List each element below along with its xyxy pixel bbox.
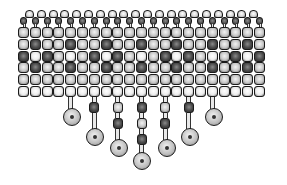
grid-bead <box>171 74 182 85</box>
grid-bead <box>42 39 53 50</box>
bead-pattern-figure <box>0 0 287 185</box>
pendant-bead <box>137 102 147 113</box>
grid-bead <box>171 27 182 38</box>
grid-bead <box>42 86 53 97</box>
grid-bead <box>112 39 123 50</box>
grid-bead <box>124 51 135 62</box>
grid-bead <box>183 51 194 62</box>
grid-bead <box>230 27 241 38</box>
grid-bead <box>77 86 88 97</box>
grid-bead <box>171 86 182 97</box>
grid-bead <box>219 51 230 62</box>
grid-bead <box>148 62 159 73</box>
grid-bead <box>101 27 112 38</box>
grid-bead <box>160 39 171 50</box>
grid-bead <box>254 27 265 38</box>
grid-bead <box>254 51 265 62</box>
grid-bead <box>65 27 76 38</box>
grid-bead <box>148 86 159 97</box>
grid-bead <box>195 27 206 38</box>
grid-bead <box>30 74 41 85</box>
grid-bead <box>18 39 29 50</box>
grid-bead <box>124 27 135 38</box>
grid-bead <box>136 86 147 97</box>
grid-bead <box>89 74 100 85</box>
grid-bead <box>77 39 88 50</box>
grid-bead <box>219 27 230 38</box>
grid-bead <box>160 74 171 85</box>
pendant-disc-hole <box>140 159 144 163</box>
grid-bead <box>148 74 159 85</box>
grid-bead <box>30 27 41 38</box>
pendant-disc-hole <box>93 135 97 139</box>
grid-bead <box>183 39 194 50</box>
grid-bead <box>65 39 76 50</box>
grid-bead <box>195 74 206 85</box>
grid-bead <box>18 27 29 38</box>
grid-bead <box>77 74 88 85</box>
pendant-bead <box>160 118 170 129</box>
pendant-bead <box>184 102 194 113</box>
grid-bead <box>65 51 76 62</box>
grid-bead <box>254 62 265 73</box>
grid-bead <box>101 51 112 62</box>
grid-bead <box>89 27 100 38</box>
grid-bead <box>207 74 218 85</box>
grid-bead <box>171 62 182 73</box>
grid-bead <box>101 86 112 97</box>
grid-bead <box>89 39 100 50</box>
grid-bead <box>219 86 230 97</box>
grid-bead <box>195 39 206 50</box>
grid-bead <box>89 51 100 62</box>
grid-bead <box>77 51 88 62</box>
grid-bead <box>148 51 159 62</box>
grid-bead <box>207 27 218 38</box>
grid-bead <box>195 62 206 73</box>
grid-bead <box>30 62 41 73</box>
grid-bead <box>195 51 206 62</box>
grid-bead <box>101 74 112 85</box>
grid-bead <box>242 74 253 85</box>
pendant-disc-hole <box>188 135 192 139</box>
pendant-bead <box>137 134 147 145</box>
grid-bead <box>42 62 53 73</box>
grid-bead <box>136 51 147 62</box>
grid-bead <box>112 74 123 85</box>
grid-bead <box>112 62 123 73</box>
pendant-bead <box>113 118 123 129</box>
grid-bead <box>112 51 123 62</box>
grid-bead <box>124 62 135 73</box>
grid-bead <box>42 51 53 62</box>
grid-bead <box>124 86 135 97</box>
grid-bead <box>101 39 112 50</box>
grid-bead <box>254 86 265 97</box>
grid-bead <box>30 51 41 62</box>
grid-bead <box>53 86 64 97</box>
grid-bead <box>53 39 64 50</box>
grid-bead <box>65 74 76 85</box>
pendant-bead <box>113 102 123 113</box>
grid-bead <box>148 39 159 50</box>
pendant-disc-hole <box>212 115 216 119</box>
grid-bead <box>219 74 230 85</box>
grid-bead <box>77 27 88 38</box>
grid-bead <box>18 86 29 97</box>
pendant-bead <box>89 102 99 113</box>
grid-bead <box>230 74 241 85</box>
pendant-disc-hole <box>165 146 169 150</box>
grid-bead <box>171 51 182 62</box>
grid-bead <box>112 27 123 38</box>
grid-bead <box>183 86 194 97</box>
grid-bead <box>124 39 135 50</box>
pendant-disc-hole <box>117 146 121 150</box>
grid-bead <box>18 51 29 62</box>
grid-bead <box>18 62 29 73</box>
grid-bead <box>242 62 253 73</box>
grid-bead <box>160 51 171 62</box>
grid-bead <box>230 39 241 50</box>
grid-bead <box>101 62 112 73</box>
grid-bead <box>160 62 171 73</box>
grid-bead <box>207 39 218 50</box>
grid-bead <box>230 62 241 73</box>
grid-bead <box>53 51 64 62</box>
